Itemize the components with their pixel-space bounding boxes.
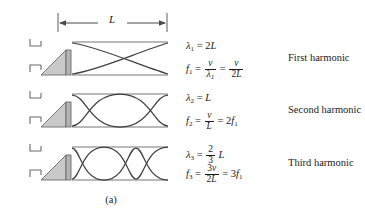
first-harmonic-label: First harmonic [288,52,350,63]
first-harmonic-equations: λ1 = 2L f1 = vλ1 = v2L [186,40,244,79]
second-harmonic-label: Second harmonic [288,104,361,115]
first-harmonic-wavelength-equation: λ1 = 2L [186,40,244,57]
third-harmonic-label: Third harmonic [288,157,354,168]
third-harmonic-wavelength-equation: λ3 = 23 L [186,145,242,162]
second-harmonic-diagram [28,88,173,134]
third-harmonic-frequency-equation: f3 = 3v2L = 3f1 [186,164,242,184]
speaker-bracket-icon [30,91,41,124]
second-harmonic-frequency-equation: f2 = vL = 2f1 [186,111,238,131]
speaker-bracket-icon [30,144,41,177]
figure-caption: (a) [91,194,131,205]
length-dimension-label: L [100,13,124,25]
standing-wave-harmonics-figure: L λ1 = 2L f1 = [0,0,365,218]
first-harmonic-diagram [28,36,173,82]
second-harmonic-wavelength-equation: λ2 = L [186,92,238,109]
third-harmonic-diagram [28,141,173,187]
speaker-bracket-icon [30,39,41,72]
second-harmonic-equations: λ2 = L f2 = vL = 2f1 [186,92,238,131]
first-harmonic-frequency-equation: f1 = vλ1 = v2L [186,59,244,79]
third-harmonic-equations: λ3 = 23 L f3 = 3v2L = 3f1 [186,145,242,184]
